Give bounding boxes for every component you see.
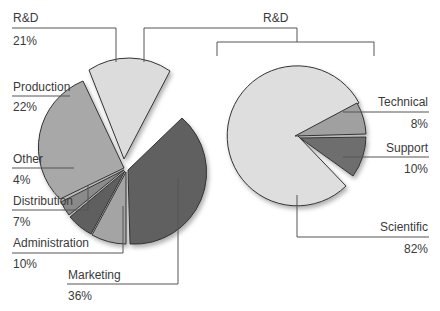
label-scientific-pct: 82% (350, 242, 428, 256)
label-marketing-pct: 36% (68, 289, 92, 303)
label-production-name: Production (13, 80, 70, 94)
label-technical-name: Technical (360, 95, 428, 109)
right-pie (227, 66, 366, 206)
label-rd-pct: 21% (13, 34, 37, 48)
label-support-name: Support (360, 141, 428, 155)
label-administration-pct: 10% (13, 257, 37, 271)
slice-scientific (227, 66, 359, 206)
slice-marketing (128, 118, 207, 244)
label-distribution-name: Distribution (13, 194, 73, 208)
label-scientific-name: Scientific (350, 220, 428, 234)
label-marketing-name: Marketing (68, 268, 121, 282)
label-distribution-pct: 7% (13, 215, 30, 229)
label-support-pct: 10% (360, 162, 428, 176)
label-technical-pct: 8% (360, 117, 428, 131)
right-pie-title: R&D (263, 11, 288, 25)
label-administration-name: Administration (13, 236, 89, 250)
label-other-pct: 4% (13, 173, 30, 187)
pie-charts (0, 0, 440, 311)
label-other-name: Other (13, 152, 43, 166)
label-rd-name: R&D (13, 11, 38, 25)
label-production-pct: 22% (13, 100, 37, 114)
